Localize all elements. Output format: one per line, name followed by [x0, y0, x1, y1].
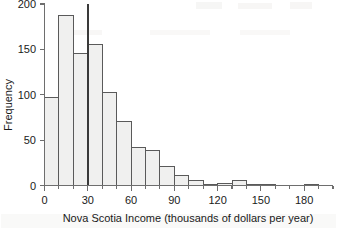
histogram-bar: [160, 166, 174, 185]
histogram-bar: [174, 176, 188, 186]
x-tick-label: 180: [295, 194, 313, 206]
x-axis-title: Nova Scotia Income (thousands of dollars…: [63, 212, 314, 224]
histogram-bar: [59, 16, 73, 186]
histogram-bar: [145, 150, 159, 185]
y-tick-label: 100: [18, 89, 36, 101]
y-axis-title: Frequency: [2, 79, 14, 131]
y-tick-label: 0: [30, 180, 36, 192]
x-tick-label: 0: [41, 194, 47, 206]
histogram-bar: [45, 97, 59, 185]
histogram-bar: [232, 181, 246, 186]
y-tick-label: 50: [24, 134, 36, 146]
histogram-bar: [73, 54, 87, 186]
histogram-bar: [131, 147, 145, 185]
x-tick-label: 150: [252, 194, 270, 206]
x-tick-label: 90: [168, 194, 180, 206]
histogram-bar: [88, 45, 102, 186]
x-tick-label: 120: [208, 194, 226, 206]
histogram-figure: 050100150200 0306090120150180 Nova Scoti…: [0, 0, 337, 229]
histogram-bar: [117, 121, 131, 185]
y-tick-label: 200: [18, 0, 36, 10]
histogram-bar: [189, 181, 203, 186]
histogram-plot-area: 050100150200 0306090120150180 Nova Scoti…: [0, 0, 337, 229]
x-tick-label: 60: [125, 194, 137, 206]
x-tick-label: 30: [82, 194, 94, 206]
histogram-bar: [102, 93, 116, 186]
y-tick-label: 150: [18, 43, 36, 55]
